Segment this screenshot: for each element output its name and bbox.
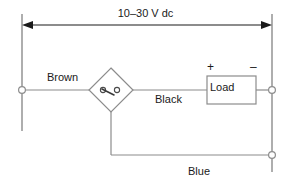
- terminal-right-return-icon: [269, 152, 276, 159]
- wiring-schematic-canvas: [0, 0, 291, 186]
- black-wire-label: Black: [155, 94, 182, 105]
- right-arrowhead-icon: [261, 21, 272, 29]
- switch-diamond-outline: [89, 68, 133, 112]
- load-positive-polarity-label: +: [207, 61, 214, 73]
- load-negative-polarity-label: –: [250, 61, 257, 73]
- blue-wire-label: Blue: [188, 166, 210, 177]
- terminal-right-load-icon: [269, 87, 276, 94]
- brown-wire-label: Brown: [47, 72, 78, 83]
- load-label: Load: [210, 82, 234, 93]
- supply-voltage-label: 10–30 V dc: [0, 8, 291, 19]
- left-arrowhead-icon: [22, 21, 33, 29]
- switch-contact-right-icon: [114, 87, 119, 92]
- terminal-left-supply-icon: [19, 87, 26, 94]
- wiring-diagram: 10–30 V dc Brown Black Blue Load + –: [0, 0, 291, 186]
